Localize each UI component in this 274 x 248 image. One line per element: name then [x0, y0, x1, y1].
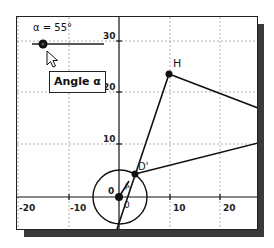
slider-label: α = 55°: [33, 22, 72, 33]
graphics-canvas[interactable]: H D' 0 A 0 -20 -10 10 20 10 20 30: [0, 0, 274, 248]
x-tick-20: 20: [223, 203, 236, 213]
label-origin: 0: [108, 186, 114, 196]
point-h[interactable]: [166, 71, 173, 78]
tooltip-angle: Angle α: [49, 71, 106, 93]
cursor-arrow-icon: [47, 51, 58, 67]
segment-h-right: [169, 74, 258, 108]
label-h: H: [173, 57, 181, 70]
slider-knob-center: [42, 43, 45, 46]
x-tick--20: -20: [19, 203, 35, 213]
axes: [17, 17, 257, 229]
label-d-prime: D': [138, 161, 148, 172]
geometry-window: H D' 0 A 0 -20 -10 10 20 10 20 30 α = 55…: [0, 0, 274, 248]
segment-dprime-right: [135, 143, 258, 174]
x-tick--10: -10: [70, 203, 86, 213]
x-tick-10: 10: [173, 203, 186, 213]
y-tick-30: 30: [103, 31, 116, 41]
label-below-origin: 0: [124, 200, 130, 210]
point-origin[interactable]: [115, 193, 123, 201]
construction-lines[interactable]: [117, 74, 258, 229]
y-tick-10: 10: [103, 134, 116, 144]
